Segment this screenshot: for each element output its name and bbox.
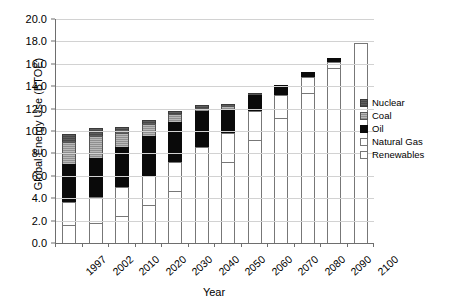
legend-swatch-icon [360,125,368,133]
energy-stacked-bar-chart: Global Energy Use (BTOE) 0.02.04.06.08.0… [0,0,456,306]
legend-label: Oil [372,122,384,135]
legend-item-renewables: Renewables [360,148,424,161]
x-tick-label: 2040 [216,253,241,278]
legend-item-nuclear: Nuclear [360,96,424,109]
legend-swatch-icon [360,138,368,146]
x-tick-label: 2070 [295,253,320,278]
x-tick-label: 2002 [110,253,135,278]
legend-label: Natural Gas [372,135,423,148]
legend-label: Renewables [372,148,424,161]
x-tick-label: 2100 [375,253,400,278]
x-tick-label: 2050 [242,253,267,278]
x-tick-label: 2060 [269,253,294,278]
legend-swatch-icon [360,151,368,159]
legend-item-natural-gas: Natural Gas [360,135,424,148]
legend-item-oil: Oil [360,122,424,135]
x-tick-label: 2090 [348,253,373,278]
x-tick-label: 2010 [136,253,161,278]
chart-legend: NuclearCoalOilNatural GasRenewables [360,96,424,161]
x-tick-label: 2080 [322,253,347,278]
x-tick-label: 2030 [189,253,214,278]
x-axis-title: Year [55,286,373,298]
legend-item-coal: Coal [360,109,424,122]
legend-swatch-icon [360,99,368,107]
legend-label: Coal [372,109,392,122]
legend-label: Nuclear [372,96,405,109]
x-tick-label: 1997 [83,253,108,278]
legend-swatch-icon [360,112,368,120]
x-tick-label: 2020 [163,253,188,278]
